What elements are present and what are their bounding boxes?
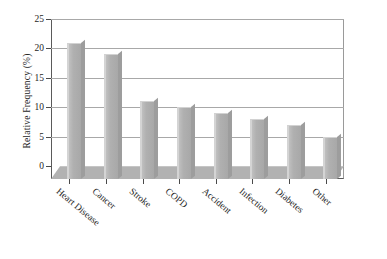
- y-axis-tick-label: 5: [39, 132, 44, 142]
- bar-front-face: [287, 125, 301, 179]
- bar-side-face: [264, 116, 268, 179]
- bar-copd: [177, 107, 191, 179]
- x-axis-tick-label: Infection: [237, 186, 270, 216]
- x-axis-tick: [326, 179, 327, 184]
- bar-front-face: [323, 137, 337, 179]
- x-axis-tick: [216, 179, 217, 184]
- x-axis-tick: [106, 179, 107, 184]
- bar-diabetes: [287, 125, 301, 179]
- bars-container: [51, 19, 344, 179]
- x-axis-tick-label: Cancer: [91, 186, 118, 211]
- y-axis-tick-label: 10: [35, 102, 45, 112]
- x-axis-tick-label: Accident: [201, 186, 234, 216]
- x-axis-tick: [179, 179, 180, 184]
- x-axis-tick-label: Diabetes: [274, 186, 306, 215]
- bar-side-face: [81, 39, 85, 179]
- bar-chart-figure: Relative Frequency (%) 0510152025 Heart …: [0, 0, 387, 259]
- y-axis-title: Relative Frequency (%): [22, 26, 32, 176]
- x-axis-tick-label: Stroke: [127, 186, 152, 210]
- bar-other: [323, 137, 337, 179]
- y-axis-tick-label: 15: [35, 73, 45, 83]
- bar-side-face: [337, 133, 341, 179]
- bar-side-face: [191, 104, 195, 179]
- bar-cancer: [104, 54, 118, 179]
- x-axis-tick-label: Other: [310, 186, 333, 208]
- x-axis-tick: [69, 179, 70, 184]
- bar-stroke: [140, 101, 154, 179]
- bar-front-face: [104, 54, 118, 179]
- bar-accident: [214, 113, 228, 179]
- bar-side-face: [228, 110, 232, 179]
- bar-front-face: [140, 101, 154, 179]
- bar-side-face: [118, 51, 122, 179]
- x-axis-tick-label: COPD: [164, 186, 190, 210]
- x-axis-tick: [143, 179, 144, 184]
- plot-area: 0510152025: [51, 19, 344, 179]
- bar-infection: [250, 119, 264, 179]
- y-axis-tick-label: 25: [35, 14, 45, 24]
- x-axis-tick: [252, 179, 253, 184]
- bar-front-face: [250, 119, 264, 179]
- bar-front-face: [67, 43, 81, 179]
- y-axis-tick-label: 20: [35, 43, 45, 53]
- bar-heart-disease: [67, 43, 81, 179]
- bar-side-face: [301, 122, 305, 179]
- x-axis-labels: Heart DiseaseCancerStrokeCOPDAccidentInf…: [51, 186, 344, 256]
- y-axis-tick-label: 0: [39, 161, 44, 171]
- x-axis-tick: [289, 179, 290, 184]
- bar-front-face: [177, 107, 191, 179]
- bar-side-face: [154, 98, 158, 179]
- bar-front-face: [214, 113, 228, 179]
